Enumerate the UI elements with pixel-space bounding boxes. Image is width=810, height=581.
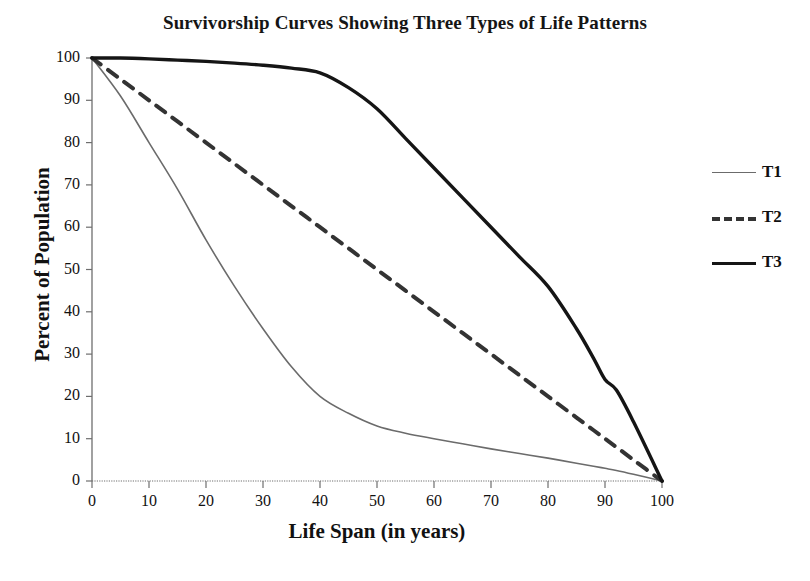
y-tick-label: 50	[36, 260, 80, 278]
y-tick-label: 80	[36, 133, 80, 151]
axes-layer	[86, 58, 662, 488]
legend-item-t2[interactable]: T2	[712, 207, 782, 227]
y-tick-label: 40	[36, 302, 80, 320]
legend-line	[712, 262, 756, 265]
legend-line	[712, 172, 756, 173]
x-tick-label: 70	[468, 492, 514, 510]
y-tick-label: 60	[36, 217, 80, 235]
x-tick-label: 0	[69, 492, 115, 510]
legend-label: T1	[762, 162, 782, 182]
x-axis-title: Life Span (in years)	[92, 519, 662, 544]
plot-area	[0, 0, 810, 581]
x-tick-label: 50	[354, 492, 400, 510]
x-tick-label: 100	[639, 492, 685, 510]
x-tick-label: 60	[411, 492, 457, 510]
x-tick-label: 10	[126, 492, 172, 510]
legend-label: T3	[762, 252, 782, 272]
legend-label: T2	[762, 207, 782, 227]
legend-item-t3[interactable]: T3	[712, 252, 782, 272]
x-tick-label: 90	[582, 492, 628, 510]
y-tick-label: 20	[36, 386, 80, 404]
series-line-t2	[92, 58, 662, 481]
y-tick-label: 90	[36, 90, 80, 108]
x-tick-label: 30	[240, 492, 286, 510]
y-tick-label: 0	[36, 471, 80, 489]
x-tick-label: 40	[297, 492, 343, 510]
legend-line	[712, 217, 756, 221]
y-tick-label: 30	[36, 344, 80, 362]
legend-swatch-t3-icon	[712, 255, 756, 269]
legend-swatch-t1-icon	[712, 165, 756, 179]
survivorship-chart: Survivorship Curves Showing Three Types …	[0, 0, 810, 581]
legend-item-t1[interactable]: T1	[712, 162, 782, 182]
legend-swatch-t2-icon	[712, 210, 756, 224]
y-tick-label: 10	[36, 429, 80, 447]
series-layer	[92, 58, 662, 481]
y-tick-label: 100	[36, 48, 80, 66]
x-tick-label: 20	[183, 492, 229, 510]
chart-title: Survivorship Curves Showing Three Types …	[0, 12, 810, 34]
x-tick-label: 80	[525, 492, 571, 510]
y-tick-label: 70	[36, 175, 80, 193]
